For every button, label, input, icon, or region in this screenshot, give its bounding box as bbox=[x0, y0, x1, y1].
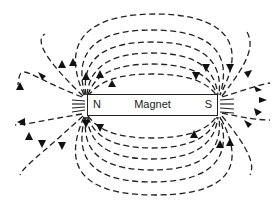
upper-field-lines bbox=[18, 14, 270, 97]
magnet-label: Magnet bbox=[88, 98, 217, 110]
lower-field-lines bbox=[15, 113, 270, 195]
south-pole-label: S bbox=[205, 98, 212, 110]
bar-magnet: N Magnet S bbox=[87, 94, 218, 116]
